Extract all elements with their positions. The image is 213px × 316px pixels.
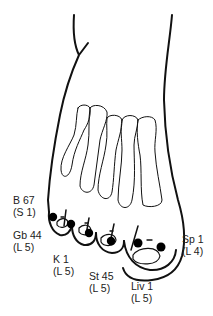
foot-outline-right [123, 15, 184, 281]
point-name: B 67 [13, 194, 36, 206]
label-gb44: Gb 44 (L 5) [13, 229, 42, 253]
point-ref: (L 5) [13, 241, 42, 253]
point-name: Gb 44 [13, 229, 42, 241]
metatarsal-bones [61, 105, 162, 208]
point-ref: (L 5) [53, 265, 74, 277]
point-st45 [107, 237, 115, 245]
point-gb44 [67, 220, 75, 228]
label-liv1: Liv 1 (L 5) [131, 280, 153, 304]
point-ref: (L 4) [182, 245, 204, 257]
label-st45: St 45 (L 5) [89, 270, 114, 294]
point-ref: (L 5) [89, 282, 114, 294]
label-sp1: Sp 1 (L 4) [182, 233, 204, 257]
point-name: Liv 1 [131, 280, 153, 292]
point-liv1 [134, 239, 143, 248]
point-k1 [85, 229, 93, 237]
point-ref: (L 5) [131, 292, 153, 304]
label-b67: B 67 (S 1) [13, 194, 36, 218]
foot-diagram [0, 0, 213, 316]
foot-outline-left [48, 15, 88, 212]
toe-dividers [64, 210, 138, 250]
point-name: K 1 [53, 253, 74, 265]
point-name: Sp 1 [182, 233, 204, 245]
point-name: St 45 [89, 270, 114, 282]
label-k1: K 1 (L 5) [53, 253, 74, 277]
point-b67 [49, 213, 57, 221]
point-ref: (S 1) [13, 206, 36, 218]
point-sp1 [157, 243, 166, 252]
